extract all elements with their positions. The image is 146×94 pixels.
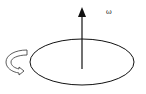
omega-label: ω xyxy=(106,9,112,16)
diagram-canvas xyxy=(0,0,146,94)
rotation-arrow-icon xyxy=(6,50,27,75)
omega-arrowhead-icon xyxy=(78,7,86,17)
